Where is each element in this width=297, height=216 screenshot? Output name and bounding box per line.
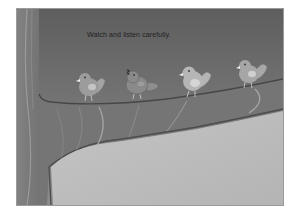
instruction-text: Watch and listen carefully.: [87, 31, 171, 38]
scene-illustration: [17, 9, 283, 205]
slide: Watch and listen carefully.: [16, 8, 284, 206]
